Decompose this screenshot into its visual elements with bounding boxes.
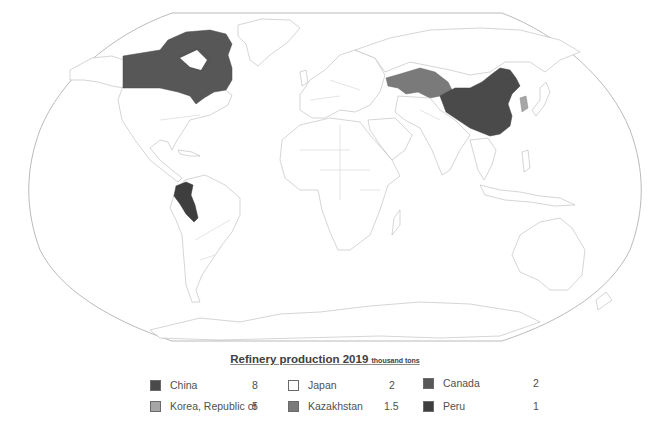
world-map (0, 0, 650, 345)
legend-label: China (170, 379, 197, 391)
legend-item-canada: Canada 2 (423, 377, 553, 393)
legend-value: 1.5 (384, 400, 399, 412)
legend-label: Canada (443, 377, 480, 389)
legend-item-china: China 8 (150, 379, 270, 395)
legend-swatch-china (150, 380, 161, 391)
legend-value: 2 (389, 379, 395, 391)
legend-value: 8 (252, 379, 258, 391)
legend-swatch-peru (423, 401, 434, 412)
legend-item-kazakhstan: Kazakhstan 1.5 (288, 400, 418, 416)
legend-item-peru: Peru 1 (423, 400, 553, 416)
legend-label: Kazakhstan (308, 400, 363, 412)
legend-item-japan: Japan 2 (288, 379, 418, 395)
legend-item-korea: Korea, Republic of 5 (150, 400, 270, 416)
legend-title: Refinery production 2019 thousand tons (0, 353, 650, 365)
legend-label: Japan (308, 379, 337, 391)
legend-swatch-japan (288, 380, 299, 391)
legend-value: 5 (252, 400, 258, 412)
legend-value: 1 (533, 400, 539, 412)
legend-unit: thousand tons (372, 357, 420, 364)
legend-title-text: Refinery production 2019 (230, 353, 368, 365)
legend-swatch-kazakhstan (288, 401, 299, 412)
legend-label: Peru (443, 400, 465, 412)
legend-value: 2 (533, 377, 539, 389)
legend-label: Korea, Republic of (170, 400, 256, 412)
legend-swatch-korea (150, 401, 161, 412)
new-zealand (596, 292, 612, 310)
legend-swatch-canada (423, 378, 434, 389)
